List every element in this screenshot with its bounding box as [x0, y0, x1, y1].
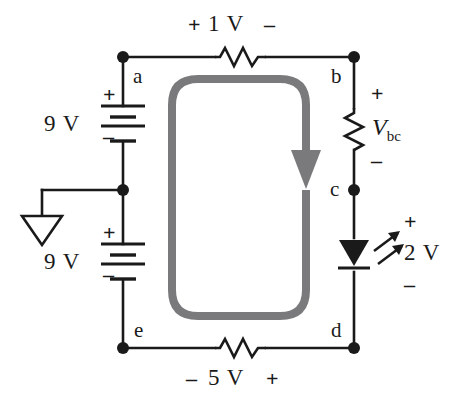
led-symbol [338, 231, 404, 268]
node-label-c: c [330, 179, 339, 200]
vbc-plus-sign: + [371, 83, 384, 105]
led-minus-sign: – [404, 274, 415, 296]
node-dot-d [348, 342, 360, 354]
top-resistor-value: 1 V [208, 12, 244, 35]
vbc-minus-sign: – [371, 150, 382, 172]
battery-9v-bottom-value: 9 V [44, 250, 80, 273]
node-label-b: b [331, 66, 342, 87]
bottom-resistor-minus-sign: – [186, 368, 197, 390]
top-resistor-plus-sign: + [188, 14, 201, 36]
resistor-bc-symbol [345, 108, 363, 150]
node-dots [117, 51, 360, 354]
ground-symbol [22, 216, 62, 245]
top-resistor-symbol [215, 48, 266, 66]
led-light-arrows [374, 231, 404, 264]
bottom-resistor-value: 5 V [208, 366, 244, 389]
kvl-loop-arrow [172, 79, 321, 316]
circuit-diagram: + 1 V – – 5 V + a b c d e + Vbc – + 2 V … [0, 0, 455, 404]
vbc-symbol: V [372, 114, 387, 140]
node-dot-b [348, 51, 360, 63]
battery-9v-top-value: 9 V [44, 112, 80, 135]
battery-9v-bottom-plus-sign: + [103, 222, 116, 244]
circuit-schematic-svg [0, 0, 455, 404]
led-plus-sign: + [404, 211, 417, 233]
node-dot-c [348, 184, 360, 196]
battery-9v-bottom-minus-sign: – [103, 264, 114, 286]
battery-9v-top-plus-sign: + [103, 84, 116, 106]
node-dot-e [117, 342, 129, 354]
top-resistor-minus-sign: – [264, 14, 275, 36]
bottom-resistor-symbol [215, 339, 266, 357]
node-label-e: e [134, 320, 143, 341]
led-value: 2 V [404, 241, 440, 264]
node-dot-a [117, 51, 129, 63]
node-dot-ground [117, 184, 129, 196]
bottom-resistor-plus-sign: + [266, 368, 279, 390]
node-label-a: a [133, 66, 142, 87]
vbc-label: Vbc [372, 115, 401, 144]
vbc-subscript: bc [387, 128, 401, 144]
battery-9v-top-minus-sign: – [103, 126, 114, 148]
node-label-d: d [331, 320, 342, 341]
